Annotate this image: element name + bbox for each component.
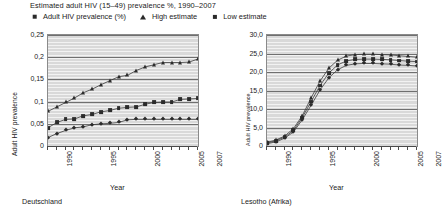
legend-label: Low estimate xyxy=(223,12,267,21)
data-point-triangle xyxy=(125,73,129,77)
x-axis-tick xyxy=(73,147,74,150)
data-point-square xyxy=(152,101,156,105)
y-axis-tick-label: 0,15 xyxy=(30,75,44,82)
data-point-triangle xyxy=(143,65,147,69)
legend-label: High estimate xyxy=(152,12,197,21)
x-axis-tick xyxy=(310,147,311,150)
y-axis-tick-label: 15,0 xyxy=(249,86,263,93)
data-point-triangle xyxy=(371,52,375,56)
x-axis-tick xyxy=(407,147,408,150)
data-point-square xyxy=(108,109,112,113)
plot-area xyxy=(266,34,418,147)
y-axis-tick-label: 0,05 xyxy=(30,119,44,126)
x-axis-tick xyxy=(354,147,355,150)
data-point-triangle xyxy=(415,55,418,59)
data-point-triangle xyxy=(327,66,331,70)
series-lines xyxy=(48,35,198,146)
y-axis-tick-label: 0 xyxy=(40,142,44,149)
y-axis-title: Adult HIV prevalence xyxy=(11,92,18,156)
triangle-marker-icon xyxy=(139,12,148,21)
x-axis-tick-label: 1990 xyxy=(285,151,292,167)
chart-panel-deutschland: Adult HIV prevalence Year Deutschland 00… xyxy=(0,28,219,215)
x-axis-tick xyxy=(398,147,399,150)
x-axis-tick-label: 1995 xyxy=(110,151,117,167)
series-lines xyxy=(267,35,417,146)
data-point-square xyxy=(64,117,68,121)
data-point-triangle xyxy=(161,60,165,64)
x-axis-line xyxy=(266,146,416,147)
y-axis-tick-label: 30,0 xyxy=(249,31,263,38)
data-point-triangle xyxy=(81,90,85,94)
x-axis-tick xyxy=(381,147,382,150)
data-point-triangle xyxy=(362,52,366,56)
data-point-square xyxy=(170,100,174,104)
panel-caption: Lesotho (Afrika) xyxy=(241,197,292,206)
x-axis-tick xyxy=(188,147,189,150)
x-axis-tick xyxy=(301,147,302,150)
x-axis-tick xyxy=(416,147,417,150)
x-axis-tick xyxy=(82,147,83,150)
data-point-square xyxy=(55,121,59,125)
plot-area xyxy=(47,34,199,147)
x-axis-tick xyxy=(275,147,276,150)
y-axis-tick-label: 0 xyxy=(259,142,263,149)
data-point-triangle xyxy=(389,53,393,57)
data-point-triangle xyxy=(117,74,121,78)
y-axis-tick-label: 0,1 xyxy=(34,97,44,104)
x-axis-tick xyxy=(144,147,145,150)
data-point-triangle xyxy=(178,60,182,64)
x-axis-tick xyxy=(337,147,338,150)
diamond-marker-icon xyxy=(210,12,219,21)
x-axis-tick xyxy=(292,147,293,150)
legend-item-prevalence: Adult HIV prevalence (%) xyxy=(30,12,126,21)
data-point-triangle xyxy=(318,79,322,83)
data-point-triangle xyxy=(170,60,174,64)
y-axis-tick-label: 10,0 xyxy=(249,105,263,112)
data-point-square xyxy=(99,110,103,114)
data-point-triangle xyxy=(47,109,50,113)
x-axis-tick-label: 2005 xyxy=(198,151,205,167)
data-point-triangle xyxy=(406,54,410,58)
x-axis-tick xyxy=(171,147,172,150)
x-axis-tick xyxy=(284,147,285,150)
data-point-triangle xyxy=(380,52,384,56)
figure-title: Estimated adult HIV (15–49) prevalence %… xyxy=(30,1,216,10)
data-point-triangle xyxy=(72,96,76,100)
data-point-square xyxy=(187,97,191,101)
x-axis-tick xyxy=(179,147,180,150)
data-point-triangle xyxy=(90,87,94,91)
data-point-triangle xyxy=(99,82,103,86)
data-point-square xyxy=(117,106,121,110)
legend: Adult HIV prevalence (%) High estimate L… xyxy=(30,12,280,21)
x-axis-tick xyxy=(390,147,391,150)
x-axis-tick-label: 2007 xyxy=(435,151,442,167)
legend-item-high-estimate: High estimate xyxy=(139,12,197,21)
data-point-square xyxy=(126,105,130,109)
legend-label: Adult HIV prevalence (%) xyxy=(43,12,126,21)
data-point-triangle xyxy=(64,100,68,104)
x-axis-tick xyxy=(109,147,110,150)
x-axis-tick xyxy=(135,147,136,150)
data-point-triangle xyxy=(187,60,191,64)
square-marker-icon xyxy=(30,12,39,21)
x-axis-title: Year xyxy=(329,183,344,192)
x-axis-tick xyxy=(118,147,119,150)
x-axis-tick-label: 2000 xyxy=(373,151,380,167)
data-point-triangle xyxy=(397,53,401,57)
data-point-triangle xyxy=(108,78,112,82)
x-axis-tick xyxy=(47,147,48,150)
data-point-square xyxy=(178,97,182,101)
x-axis-title: Year xyxy=(110,183,125,192)
data-point-triangle xyxy=(134,68,138,72)
x-axis-tick xyxy=(345,147,346,150)
x-axis-tick xyxy=(100,147,101,150)
x-axis-tick xyxy=(363,147,364,150)
x-axis-tick xyxy=(266,147,267,150)
data-point-square xyxy=(196,97,199,101)
data-point-triangle xyxy=(336,58,340,62)
x-axis-tick xyxy=(91,147,92,150)
data-point-triangle xyxy=(196,57,199,61)
data-point-square xyxy=(90,113,94,117)
data-point-square xyxy=(73,117,77,121)
